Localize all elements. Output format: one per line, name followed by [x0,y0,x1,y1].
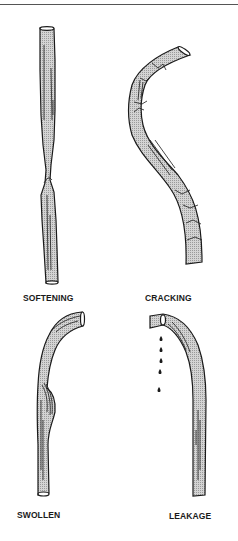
label-swollen: SWOLLEN [17,510,60,520]
cracking-hose-icon [129,45,202,264]
leakage-hose-icon [150,314,206,496]
label-cracking: CRACKING [145,293,192,303]
label-leakage: LEAKAGE [169,511,211,521]
label-softening: SOFTENING [23,293,74,303]
softening-hose-icon [40,27,58,284]
leak-drops-icon [158,336,163,392]
swollen-hose-icon [37,312,84,496]
hose-conditions-illustration [0,0,238,541]
